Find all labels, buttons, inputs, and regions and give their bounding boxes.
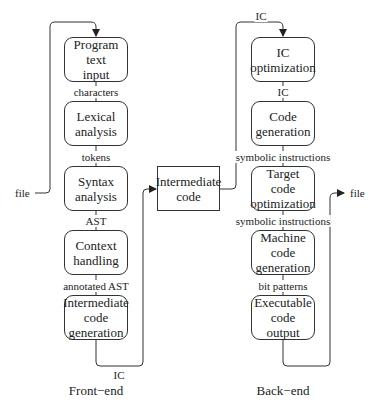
edge-label-symbolic-instructions-1: symbolic instructions — [235, 151, 331, 163]
box-label: Lexical analysis — [75, 109, 117, 139]
input-label-file: file — [14, 187, 31, 199]
box-context-handling: Context handling — [64, 230, 128, 275]
edge-label-characters: characters — [73, 86, 120, 98]
box-label: Program text input — [74, 37, 119, 82]
box-label: Intermediate code generation — [63, 295, 129, 340]
edge-label-bit-patterns: bit patterns — [257, 280, 308, 292]
output-label-file: file — [349, 187, 366, 199]
edge-label-symbolic-instructions-2: symbolic instructions — [235, 215, 331, 227]
box-lexical-analysis: Lexical analysis — [64, 101, 128, 146]
edge-label-ast: AST — [85, 215, 108, 227]
box-code-generation: Code generation — [251, 101, 315, 146]
output-label-ic: IC — [113, 369, 126, 381]
box-machine-code-generation: Machine code generation — [251, 230, 315, 275]
input-label-ic: IC — [255, 10, 268, 22]
box-intermediate-code-generation: Intermediate code generation — [64, 295, 128, 340]
box-program-text-input: Program text input — [64, 37, 128, 82]
edge-label-annotated-ast: annotated AST — [62, 280, 130, 292]
box-label: Machine code generation — [256, 230, 311, 275]
edge-label-ic: IC — [277, 86, 290, 98]
caption-front-end: Front−end — [69, 383, 123, 399]
box-label: Target code optimization — [250, 166, 316, 211]
box-label: Intermediate code — [156, 174, 222, 204]
box-label: IC optimization — [250, 45, 316, 75]
box-syntax-analysis: Syntax analysis — [64, 166, 128, 211]
box-target-code-optimization: Target code optimization — [251, 166, 315, 211]
box-executable-code-output: Executable code output — [251, 295, 315, 340]
box-intermediate-code: Intermediate code — [157, 166, 220, 211]
edge-label-tokens: tokens — [81, 151, 112, 163]
caption-back-end: Back−end — [257, 383, 310, 399]
box-label: Syntax analysis — [75, 174, 117, 204]
box-label: Context handling — [73, 238, 119, 268]
box-ic-optimization: IC optimization — [251, 37, 315, 82]
box-label: Code generation — [256, 109, 311, 139]
box-label: Executable code output — [254, 295, 312, 340]
